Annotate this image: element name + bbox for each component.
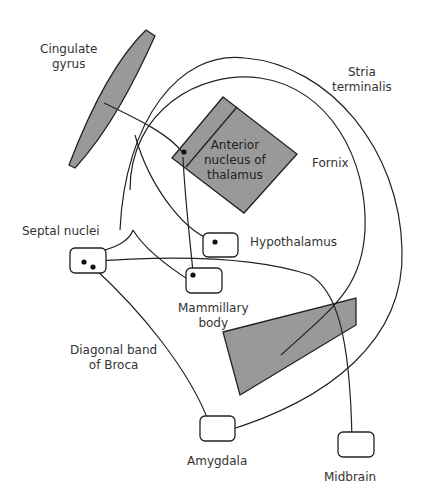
label-line: Anterior [204,138,266,153]
label-line: nucleus of [204,153,266,168]
label-midbrain: Midbrain [324,470,376,485]
label-cingulate-gyrus: Cingulate gyrus [40,42,97,72]
label-line: Cingulate [40,42,97,57]
label-line: Diagonal band [70,343,157,358]
amygdala-box [200,416,235,441]
label-line: thalamus [204,168,266,183]
label-line: body [178,316,248,331]
label-hypothalamus: Hypothalamus [250,235,337,250]
label-line: terminalis [332,80,392,95]
label-anterior-nucleus: Anterior nucleus of thalamus [204,138,266,183]
midbrain-box [338,432,374,457]
mammillary-box [186,268,222,293]
label-line: gyrus [40,57,97,72]
label-line: of Broca [70,358,157,373]
hypothalamus-box [203,233,238,257]
label-septal-nuclei: Septal nuclei [22,224,100,239]
label-stria-terminalis: Stria terminalis [332,65,392,95]
label-line: Mammillary [178,301,248,316]
label-diagonal-band: Diagonal band of Broca [70,343,157,373]
label-mammillary-body: Mammillary body [178,301,248,331]
septal-nuclei-box [70,248,106,273]
label-fornix: Fornix [312,156,349,171]
label-line: Stria [332,65,392,80]
label-amygdala: Amygdala [187,454,247,469]
